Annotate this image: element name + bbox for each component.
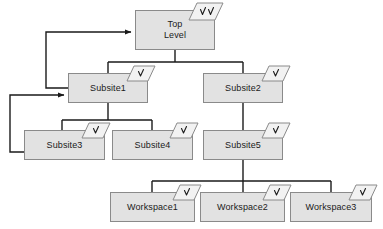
- node-label-subsite4: Subsite4: [132, 140, 174, 151]
- node-label-workspace1: Workspace1: [124, 202, 181, 213]
- node-label-subsite5: Subsite5: [222, 140, 264, 151]
- node-label-subsite1: Subsite1: [87, 83, 129, 94]
- node-workspace2[interactable]: Workspace2: [200, 192, 285, 222]
- node-top-level[interactable]: Top Level: [135, 10, 215, 50]
- node-workspace3[interactable]: Workspace3: [290, 192, 372, 222]
- edge-top-to-subsites: [108, 50, 243, 73]
- node-workspace1[interactable]: Workspace1: [110, 192, 195, 222]
- site-hierarchy-diagram: Top Level Subsite1 Subsite2 Subsite3 Sub…: [0, 0, 383, 229]
- node-label-workspace2: Workspace2: [214, 202, 271, 213]
- node-label-top-level: Top Level: [161, 19, 189, 41]
- node-label-subsite2: Subsite2: [222, 83, 264, 94]
- edge-subsite1-to-children: [62, 103, 152, 130]
- node-subsite4[interactable]: Subsite4: [112, 130, 193, 160]
- node-label-workspace3: Workspace3: [303, 202, 360, 213]
- node-subsite2[interactable]: Subsite2: [203, 73, 283, 103]
- edge-subsite5-to-workspaces: [152, 160, 331, 192]
- node-label-subsite3: Subsite3: [44, 140, 86, 151]
- node-subsite1[interactable]: Subsite1: [68, 73, 148, 103]
- node-subsite3[interactable]: Subsite3: [24, 130, 105, 160]
- node-subsite5[interactable]: Subsite5: [203, 130, 283, 160]
